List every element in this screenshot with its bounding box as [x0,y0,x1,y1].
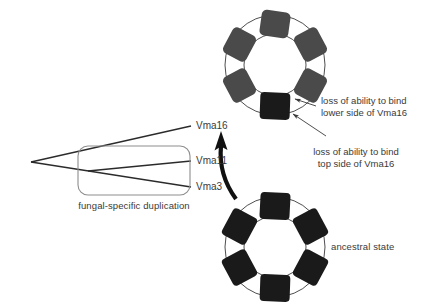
ring-subunit-black [259,192,290,221]
callout-top-side-line1: loss of ability to bind [313,146,399,158]
callout-lower-side-line1: loss of ability to bind [321,95,407,107]
ancestral-ring [221,192,330,302]
callout-top-side: loss of ability to bind top side of Vma1… [313,146,399,169]
evolution-diagram: Vma16 Vma11 Vma3 fungal-specific duplica… [0,0,437,308]
tree-taxon-vma3: Vma3 [196,181,222,192]
ring-subunit [292,26,329,64]
ring-subunit-black [292,207,330,246]
ring-subunit-black [260,274,291,302]
ring-subunit [221,26,258,64]
tree-taxon-vma11: Vma11 [196,155,227,166]
ring-subunits [221,192,330,302]
ring-subunits [221,9,329,120]
callout-lower-side: loss of ability to bind lower side of Vm… [321,95,407,118]
tree-branch-vma16 [31,126,191,162]
phylogenetic-tree [31,126,191,187]
ring-subunit-black [260,92,291,120]
tree-branch-root-to-dup [31,162,191,187]
fungal-duplication-caption: fungal-specific duplication [78,200,190,211]
ring-subunit-black [292,248,330,287]
tree-branch-vma11 [88,161,191,171]
callout-lower-side-line2: lower side of Vma16 [321,107,407,119]
tree-taxon-vma16: Vma16 [196,120,228,131]
ring-subunit [221,67,258,105]
derived-ring [221,9,329,120]
ring-subunit [259,9,291,39]
ring-subunit-black [221,248,259,287]
ring-subunit-black [221,207,259,246]
ancestral-state-label: ancestral state [331,241,394,252]
callout-top-side-line2: top side of Vma16 [313,158,399,170]
